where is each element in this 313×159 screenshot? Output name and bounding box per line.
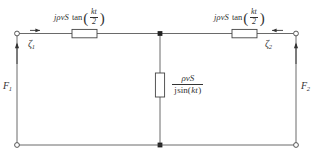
shunt-denominator: j sin( kt )	[172, 84, 203, 95]
series-left-denominator: 2	[90, 17, 99, 27]
shunt-denominator-function: sin(	[177, 86, 191, 95]
series-left-fraction: kt 2	[90, 8, 99, 26]
circuit-schematic-canvas	[0, 0, 313, 159]
shunt-impedance-label: ρvS j sin( kt )	[172, 74, 203, 95]
port2-force-label: F2	[301, 80, 310, 91]
shunt-denominator-arg: kt	[191, 86, 198, 95]
arrow-f2-direction	[294, 43, 298, 65]
series-right-function: tan	[232, 13, 242, 22]
port2-displacement-label: ζ2	[265, 38, 272, 49]
arrow-f1-direction	[15, 43, 19, 65]
zeta2-subscript: 2	[269, 43, 272, 50]
series-impedance-right[interactable]	[232, 29, 257, 37]
terminal-bottom-left[interactable]	[15, 143, 20, 148]
circuit-diagram: jρvS tan ( kt 2 ) jρvS tan ( kt 2 ) ρvS …	[0, 0, 313, 159]
series-left-function: tan	[72, 13, 82, 22]
port1-displacement-label: ζ1	[28, 38, 35, 49]
terminal-bottom-right[interactable]	[294, 143, 299, 148]
port1-force-label: F1	[3, 80, 12, 91]
terminal-top-right[interactable]	[294, 31, 299, 36]
arrow-zeta2-direction	[272, 29, 283, 33]
series-left-numerator: kt	[90, 8, 99, 17]
arrow-zeta1-direction	[30, 29, 40, 33]
shunt-denominator-close: )	[198, 86, 201, 95]
series-impedance-left-label: jρvS tan ( kt 2 )	[54, 8, 105, 26]
f1-subscript: 1	[9, 85, 12, 92]
f2-subscript: 2	[307, 85, 310, 92]
series-right-lead: jρvS	[214, 13, 229, 22]
series-right-fraction: kt 2	[250, 8, 259, 26]
series-left-lead: jρvS	[54, 13, 69, 22]
series-right-numerator: kt	[250, 8, 259, 17]
shunt-numerator: ρvS	[179, 74, 196, 84]
series-right-denominator: 2	[250, 17, 259, 27]
terminal-top-left[interactable]	[15, 31, 20, 36]
series-impedance-left[interactable]	[72, 29, 97, 37]
zeta1-subscript: 1	[32, 43, 35, 50]
center-junction-node[interactable]	[158, 31, 163, 36]
shunt-impedance-center[interactable]	[155, 73, 164, 97]
series-impedance-right-label: jρvS tan ( kt 2 )	[214, 8, 265, 26]
